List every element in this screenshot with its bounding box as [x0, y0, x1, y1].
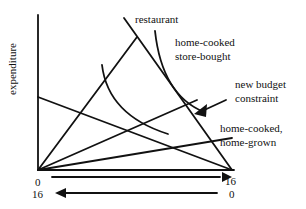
- y-axis-label: expenditure: [6, 43, 18, 95]
- store-bought-ray: [38, 100, 197, 170]
- store-bought-label-line2: store-bought: [175, 50, 231, 62]
- x-max-label: 16: [225, 175, 236, 187]
- home-grown-label-line2: home-grown: [220, 136, 276, 148]
- origin-label: 0: [35, 176, 41, 188]
- second-axis-right-label: 0: [229, 188, 235, 200]
- new-budget-label-line1: new budget: [235, 78, 286, 90]
- pointer-arrowhead-icon: [194, 104, 207, 117]
- store-bought-label-line1: home-cooked: [175, 36, 235, 48]
- left-arrowhead-icon: [55, 188, 66, 198]
- home-grown-ray: [38, 138, 232, 170]
- indifference-curve-1: [102, 65, 168, 134]
- second-axis-left-label: 16: [32, 188, 43, 200]
- budget-diagram: [0, 0, 306, 209]
- new-budget-label-line2: constraint: [235, 92, 278, 104]
- restaurant-label: restaurant: [135, 13, 178, 25]
- home-grown-label-line1: home-cooked,: [220, 122, 283, 134]
